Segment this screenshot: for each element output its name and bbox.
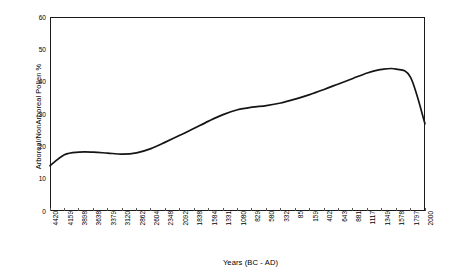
x-axis-tick-label: 1797 [413, 211, 420, 225]
pollen-curve [50, 68, 425, 165]
y-axis-tick-label: 0 [30, 207, 46, 214]
y-axis-tick-label: 40 [30, 78, 46, 85]
y-axis-tick-label: 60 [30, 13, 46, 20]
x-axis-tick-mark [338, 208, 339, 212]
x-axis-tick-label: 3379 [110, 211, 117, 225]
x-axis-tick-label: 881 [355, 211, 362, 222]
y-axis-tick-label: 50 [30, 45, 46, 52]
x-axis-tick-mark [136, 208, 137, 212]
x-axis-tick-label: 3638 [95, 211, 102, 225]
x-axis-tick-mark [93, 208, 94, 212]
x-axis-tick-label: 1080 [240, 211, 247, 225]
x-axis-tick-mark [64, 208, 65, 212]
x-axis-tick-label: 1838 [196, 211, 203, 225]
x-axis-tick-mark [295, 208, 296, 212]
x-axis-tick-mark [208, 208, 209, 212]
x-axis-tick-mark [352, 208, 353, 212]
x-axis-tick-mark [50, 208, 51, 212]
y-axis-tick-label: 10 [30, 175, 46, 182]
x-axis-tick-label: 332 [283, 211, 290, 222]
y-axis-tick-label: 30 [30, 110, 46, 117]
x-axis-tick-mark [425, 208, 426, 212]
x-axis-tick-mark [122, 208, 123, 212]
x-axis-tick-mark [396, 208, 397, 212]
x-axis-tick-mark [223, 208, 224, 212]
x-axis-tick-mark [194, 208, 195, 212]
x-axis-tick-label: 2348 [167, 211, 174, 225]
x-axis-tick-mark [78, 208, 79, 212]
x-axis-tick-label: 1331 [225, 211, 232, 225]
x-axis-tick-mark [280, 208, 281, 212]
x-axis-title: Years (BC - AD) [0, 258, 455, 267]
y-axis-tick-labels: 0102030405060 [26, 0, 46, 277]
x-axis-tick-label: 4420 [52, 211, 59, 225]
x-axis-tick-label: 4159 [67, 211, 74, 225]
x-axis-tick-mark [266, 208, 267, 212]
x-axis-tick-mark [251, 208, 252, 212]
x-axis-tick-label: 1578 [398, 211, 405, 225]
x-axis-tick-mark [179, 208, 180, 212]
x-axis-tick-mark [324, 208, 325, 212]
x-axis-tick-mark [410, 208, 411, 212]
x-axis-tick-mark [367, 208, 368, 212]
x-axis-tick-label: 1117 [369, 211, 376, 224]
x-axis-tick-label: 1349 [384, 211, 391, 225]
x-axis-tick-label: 2092 [182, 211, 189, 225]
x-axis-tick-mark [309, 208, 310, 212]
x-axis-title-text: Years (BC - AD) [177, 258, 278, 267]
x-axis-tick-label: 159 [312, 211, 319, 222]
x-axis-tick-label: 2862 [139, 211, 146, 225]
x-axis-tick-mark [165, 208, 166, 212]
x-axis-tick-mark [107, 208, 108, 212]
pollen-percentage-line-chart: Arboreal/NonArboreal Pollen % 0102030405… [0, 0, 455, 277]
x-axis-tick-mark [381, 208, 382, 212]
x-axis-tick-label: 2000 [427, 211, 434, 225]
x-axis-tick-label: 643 [341, 211, 348, 222]
x-axis-tick-label: 402 [326, 211, 333, 222]
x-axis-tick-label: 580 [268, 211, 275, 222]
x-axis-tick-label: 85 [297, 211, 304, 218]
x-axis-tick-label: 3120 [124, 211, 131, 225]
y-axis-tick-label: 20 [30, 142, 46, 149]
x-axis-tick-label: 1584 [211, 211, 218, 225]
x-axis-tick-label: 3898 [81, 211, 88, 225]
x-axis-tick-labels: 4420415938983638337931202862260423482092… [50, 211, 425, 251]
x-axis-tick-label: 2604 [153, 211, 160, 225]
x-axis-tick-mark [150, 208, 151, 212]
x-axis-tick-label: 829 [254, 211, 261, 222]
x-axis-tick-mark [237, 208, 238, 212]
data-curve-layer [50, 17, 425, 211]
